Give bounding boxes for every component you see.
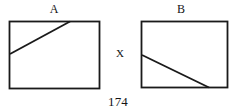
page-number: 174 xyxy=(97,95,139,109)
rectangle-b-label: B xyxy=(171,3,191,15)
page-canvas: A B X 174 xyxy=(0,0,236,112)
rectangle-a xyxy=(10,22,100,89)
separator-x-label: X xyxy=(110,47,130,59)
rectangle-b xyxy=(142,22,228,88)
rectangle-a-label: A xyxy=(44,3,64,15)
